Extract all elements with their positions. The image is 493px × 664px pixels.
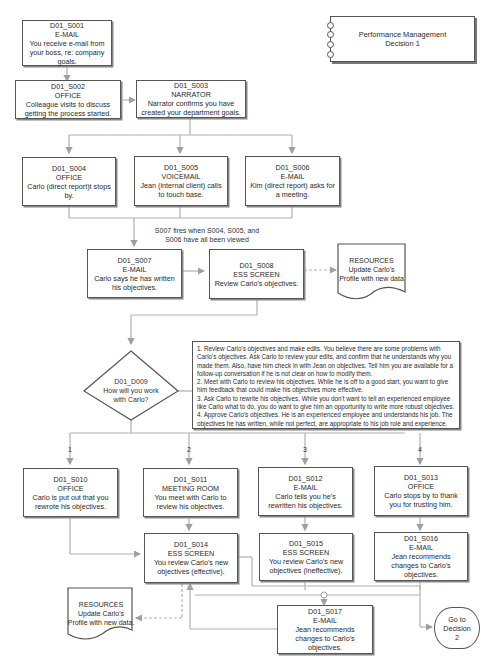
node-type: ESS SCREEN	[233, 270, 279, 279]
node-text: You receive e-mail from your boss, re: c…	[27, 39, 107, 66]
node-id: D01_S012	[289, 474, 323, 483]
node-type: MEETING ROOM	[162, 484, 219, 493]
node-s015[interactable]: D01_S015 ESS SCREEN You review Carlo's n…	[259, 533, 353, 581]
node-id: D01_S008	[240, 261, 274, 270]
node-id: D01_S017	[308, 607, 342, 616]
node-id: D01_S013	[404, 473, 438, 482]
node-s011[interactable]: D01_S011 MEETING ROOM You meet with Carl…	[143, 468, 238, 517]
node-s010[interactable]: D01_S010 OFFICE Carlo is put out that yo…	[23, 468, 118, 517]
title-card: Performance Management Decision 1	[330, 16, 475, 62]
node-type: E-MAIL	[123, 265, 147, 274]
branch-label-4: 4	[416, 445, 424, 454]
node-text: Review Carlo's objectives.	[215, 279, 299, 288]
title-line2: Decision 1	[385, 39, 420, 49]
node-text: Jean recommends changes to Carlo's objec…	[282, 625, 368, 652]
go-to-decision-2[interactable]: Go to Decision 2	[434, 607, 480, 649]
branch-label-2: 2	[185, 445, 193, 454]
node-text: Colleague visits to discuss getting the …	[20, 100, 116, 118]
node-s005[interactable]: D01_S005 VOICEMAIL Jean (internal client…	[134, 156, 228, 206]
node-type: E-MAIL	[294, 483, 318, 492]
node-s001[interactable]: D01_S001 E-MAIL You receive e-mail from …	[22, 20, 112, 66]
node-text: Carlo (direct report)t stops by.	[27, 182, 111, 200]
branch-label-3: 3	[301, 445, 309, 454]
node-text: Carlo tells you he's rewritten his objec…	[263, 492, 348, 510]
decision-d009[interactable]: D01_D009 How will you work with Carlo?	[96, 377, 166, 404]
node-text: Carlo is put out that you rewrote his ob…	[28, 493, 113, 511]
node-text: Narrator confirms you have created your …	[141, 99, 241, 117]
resources-bottom[interactable]: RESOURCES Update Carlo's Profile with ne…	[66, 600, 136, 627]
node-id: D01_S004	[52, 164, 86, 173]
node-s003[interactable]: D01_S003 NARRATOR Narrator confirms you …	[136, 80, 246, 118]
node-id: D01_S006	[276, 163, 310, 172]
node-type: NARRATOR	[171, 90, 211, 99]
node-text: You review Carlo's new objectives (ineff…	[264, 557, 348, 575]
node-s013[interactable]: D01_S013 OFFICE Carlo stops by to thank …	[374, 466, 468, 516]
node-text: Kim (direct report) asks for a meeting.	[250, 181, 335, 199]
node-id: D01_S001	[50, 21, 84, 30]
binder-ring-icon	[327, 41, 334, 48]
node-id: D01_S015	[289, 539, 323, 548]
node-text: Carlo stops by to thank you for trusting…	[379, 491, 463, 509]
node-id: D01_S011	[174, 475, 207, 484]
node-s008[interactable]: D01_S008 ESS SCREEN Review Carlo's objec…	[209, 249, 304, 299]
node-id: D01_S005	[164, 163, 198, 172]
node-type: VOICEMAIL	[161, 172, 200, 181]
node-id: D01_S010	[54, 475, 88, 484]
node-type: E-MAIL	[409, 543, 433, 552]
fire-condition-note: S007 fires when S004, S005, and S006 hav…	[142, 226, 272, 244]
decision-options-note: 1. Review Carlo's objectives and make ed…	[192, 341, 460, 429]
node-s016[interactable]: D01_S016 E-MAIL Jean recommends changes …	[374, 532, 468, 581]
node-id: D01_S014	[174, 540, 208, 549]
node-type: E-MAIL	[313, 616, 337, 625]
binder-ring-icon	[327, 22, 334, 29]
node-type: OFFICE	[408, 482, 434, 491]
node-type: E-MAIL	[281, 172, 305, 181]
node-id: D01_S002	[51, 82, 85, 91]
branch-label-1: 1	[66, 445, 74, 454]
node-text: You meet with Carlo to review his object…	[148, 493, 233, 511]
binder-ring-icon	[327, 31, 334, 38]
node-s014[interactable]: D01_S014 ESS SCREEN You review Carlo's n…	[144, 533, 238, 583]
node-id: D01_S007	[118, 256, 152, 265]
node-s002[interactable]: D01_S002 OFFICE Colleague visits to disc…	[15, 80, 121, 119]
node-text: Jean (internal client) calls to touch ba…	[139, 181, 223, 199]
node-id: D01_S003	[174, 81, 208, 90]
node-type: OFFICE	[55, 91, 81, 100]
node-s017[interactable]: D01_S017 E-MAIL Jean recommends changes …	[277, 605, 373, 654]
node-type: ESS SCREEN	[283, 548, 329, 557]
title-line1: Performance Management	[359, 30, 447, 40]
binder-ring-icon	[327, 51, 334, 58]
node-text: You review Carlo's new objectives (effec…	[149, 558, 233, 576]
node-s012[interactable]: D01_S012 E-MAIL Carlo tells you he's rew…	[258, 467, 353, 516]
node-s004[interactable]: D01_S004 OFFICE Carlo (direct report)t s…	[22, 157, 116, 206]
node-type: E-MAIL	[55, 30, 79, 39]
node-s006[interactable]: D01_S006 E-MAIL Kim (direct report) asks…	[245, 156, 340, 206]
node-type: ESS SCREEN	[168, 549, 214, 558]
node-type: OFFICE	[57, 484, 83, 493]
node-text: Carlo says he has written his objectives…	[92, 274, 177, 292]
node-id: D01_S016	[404, 534, 438, 543]
node-s007[interactable]: D01_S007 E-MAIL Carlo says he has writte…	[87, 249, 182, 298]
node-text: Jean recommends changes to Carlo's objec…	[379, 552, 463, 579]
node-type: OFFICE	[56, 173, 82, 182]
resources-top[interactable]: RESOURCES Update Carlo's Profile with ne…	[338, 256, 405, 283]
